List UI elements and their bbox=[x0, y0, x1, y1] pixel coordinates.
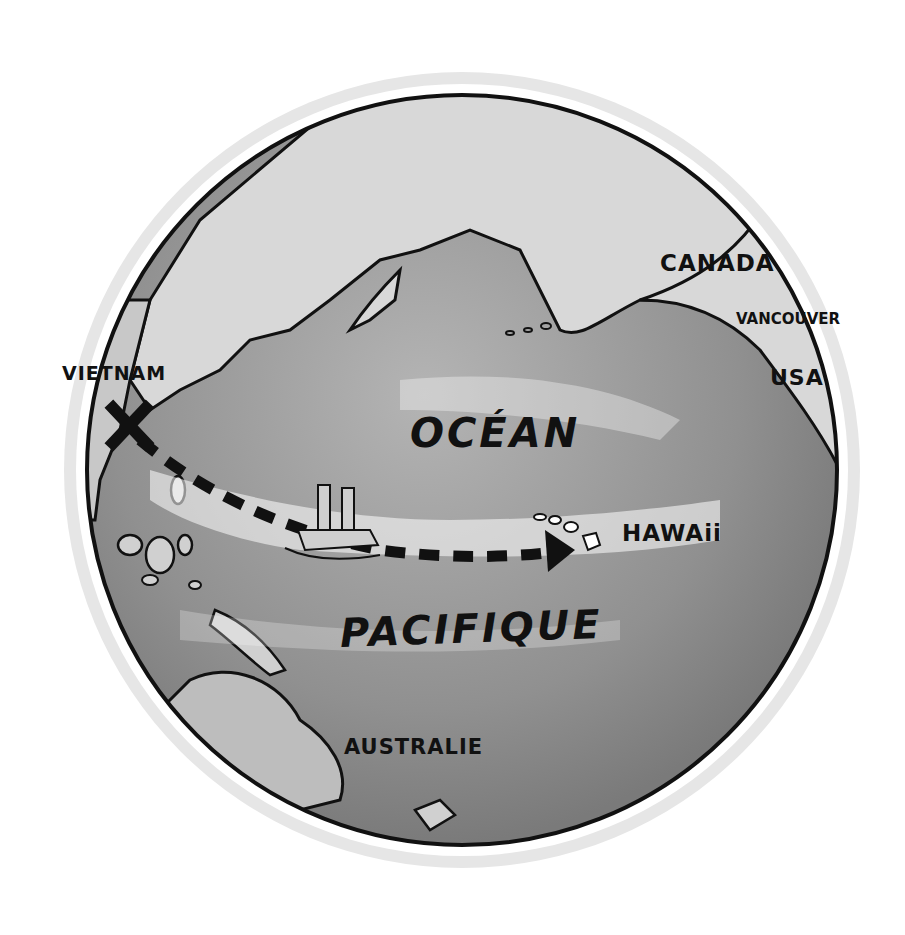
label-canada: CANADA bbox=[660, 250, 775, 276]
label-vietnam: VIETNAM bbox=[62, 362, 166, 384]
label-vancouver: VANCOUVER bbox=[736, 310, 840, 328]
map-illustration: VIETNAM CANADA VANCOUVER USA OCÉAN PACIF… bbox=[0, 0, 905, 935]
label-hawaii: HAWAii bbox=[622, 520, 722, 546]
label-ocean: OCÉAN bbox=[410, 410, 580, 456]
label-pacifique: PACIFIQUE bbox=[339, 601, 603, 656]
globe-graphic bbox=[0, 0, 905, 935]
label-australia: AUSTRALIE bbox=[344, 735, 483, 759]
label-usa: USA bbox=[770, 365, 824, 390]
